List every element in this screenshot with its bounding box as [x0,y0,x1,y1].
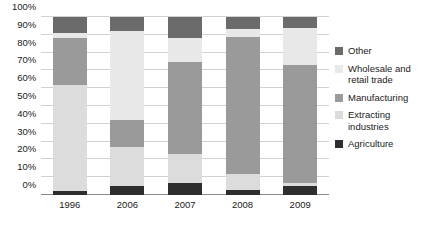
bar-segment[interactable] [168,62,202,155]
bar-segment[interactable] [226,190,260,195]
y-axis-tick-label: 60% [17,72,36,83]
legend-item-label: Other [348,45,372,57]
bar-segment[interactable] [283,17,317,28]
y-axis-tick-label: 30% [17,125,36,136]
bar-segment[interactable] [110,186,144,195]
bar-segment[interactable] [283,186,317,195]
bar-segment[interactable] [168,154,202,182]
legend-item[interactable]: Extracting industries [335,109,429,132]
legend-item-label: Wholesale and retail trade [348,63,411,86]
x-axis-tick-label: 1996 [40,199,100,210]
legend: OtherWholesale and retail tradeManufactu… [335,45,429,156]
stacked-bar-chart: 0%10%20%30%40%50%60%70%80%90%100% 199620… [0,0,431,245]
x-axis-tick-label: 2008 [213,199,273,210]
legend-item[interactable]: Manufacturing [335,92,429,104]
bar-segment[interactable] [53,17,87,33]
y-axis: 0%10%20%30%40%50%60%70%80%90%100% [0,17,36,195]
legend-swatch-icon [335,140,343,148]
legend-swatch-icon [335,111,343,119]
y-axis-tick-label: 70% [17,54,36,65]
bar-segment[interactable] [168,17,202,38]
bar-segment[interactable] [53,85,87,192]
bar-group[interactable] [110,17,144,195]
legend-item[interactable]: Other [335,45,429,57]
bar-group[interactable] [226,17,260,195]
bar-segment[interactable] [168,38,202,61]
bar-segment[interactable] [283,183,317,187]
bar-segment[interactable] [53,38,87,84]
y-axis-tick-label: 80% [17,36,36,47]
bar-segment[interactable] [226,174,260,190]
plot-area [41,17,329,195]
y-axis-tick-label: 50% [17,90,36,101]
bar-segment[interactable] [283,28,317,65]
y-axis-tick-label: 40% [17,107,36,118]
legend-swatch-icon [335,47,343,55]
bar-segment[interactable] [226,29,260,36]
bar-segment[interactable] [110,31,144,120]
x-axis-tick-label: 2007 [155,199,215,210]
legend-item[interactable]: Wholesale and retail trade [335,63,429,86]
bar-group[interactable] [283,17,317,195]
bar-segment[interactable] [110,147,144,186]
bars-layer [41,17,329,195]
legend-item[interactable]: Agriculture [335,138,429,150]
legend-item-label: Manufacturing [348,92,408,104]
legend-item-label: Extracting industries [348,109,390,132]
bar-segment[interactable] [168,183,202,195]
legend-item-label: Agriculture [348,138,393,150]
bar-segment[interactable] [283,65,317,182]
bar-group[interactable] [168,17,202,195]
bar-segment[interactable] [53,191,87,195]
x-axis-tick-label: 2009 [270,199,330,210]
bar-group[interactable] [53,17,87,195]
y-axis-tick-label: 20% [17,143,36,154]
bar-segment[interactable] [226,37,260,174]
y-axis-tick-label: 0% [22,179,36,190]
legend-swatch-icon [335,94,343,102]
bar-segment[interactable] [226,17,260,29]
x-axis-tick-label: 2006 [97,199,157,210]
bar-segment[interactable] [110,120,144,147]
legend-swatch-icon [335,65,343,73]
bar-segment[interactable] [53,33,87,38]
y-axis-tick-label: 100% [12,1,36,12]
y-axis-tick-label: 10% [17,161,36,172]
x-axis: 19962006200720082009 [41,199,329,215]
bar-segment[interactable] [110,17,144,31]
y-axis-tick-label: 90% [17,18,36,29]
